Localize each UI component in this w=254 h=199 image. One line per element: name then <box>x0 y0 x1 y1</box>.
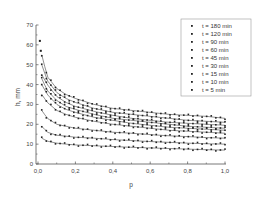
data-point <box>50 93 52 95</box>
data-point <box>201 143 203 145</box>
data-point <box>59 102 61 104</box>
data-point <box>210 115 212 117</box>
data-point <box>119 121 121 123</box>
data-point <box>224 144 226 146</box>
legend-label: t = 5 min <box>202 87 225 93</box>
data-point <box>87 128 89 130</box>
data-point <box>96 130 98 132</box>
data-point <box>41 74 43 76</box>
data-point <box>220 149 222 151</box>
data-point <box>146 133 148 135</box>
data-point <box>206 149 208 151</box>
data-point <box>188 143 190 145</box>
data-point <box>192 115 194 117</box>
data-point <box>41 55 43 57</box>
data-point <box>110 139 112 141</box>
data-point <box>165 128 167 130</box>
data-point <box>96 139 98 141</box>
data-point <box>183 122 185 124</box>
data-point <box>110 131 112 133</box>
legend-label: t = 60 min <box>202 47 229 53</box>
data-point <box>123 131 125 133</box>
data-point <box>128 114 130 116</box>
data-point <box>192 149 194 151</box>
data-point <box>165 112 167 114</box>
data-point <box>68 127 70 129</box>
data-point <box>151 111 153 113</box>
data-point <box>206 123 208 125</box>
data-point <box>87 138 89 140</box>
legend: t = 180 mint = 120 mint = 90 mint = 60 m… <box>181 19 251 96</box>
data-point <box>105 131 107 133</box>
data-point <box>59 97 61 99</box>
data-point <box>123 125 125 127</box>
data-point <box>169 149 171 151</box>
data-point <box>197 126 199 128</box>
data-point <box>201 120 203 122</box>
data-point <box>73 96 75 98</box>
data-point <box>78 110 80 112</box>
data-point <box>101 138 103 140</box>
data-point <box>210 144 212 146</box>
data-point <box>220 117 222 119</box>
data-point <box>82 107 84 109</box>
data-point <box>110 111 112 113</box>
legend-label: t = 180 min <box>202 23 232 29</box>
data-point <box>215 128 217 130</box>
data-point <box>50 120 52 122</box>
data-point <box>224 137 226 139</box>
data-point <box>178 118 180 120</box>
data-point <box>155 142 157 144</box>
data-point <box>160 141 162 143</box>
data-point <box>151 134 153 136</box>
data-point <box>55 122 57 124</box>
data-point <box>160 135 162 137</box>
x-tick-label: 0,8 <box>183 168 192 174</box>
data-point <box>114 133 116 135</box>
data-point <box>64 104 66 106</box>
data-point <box>128 146 130 148</box>
data-point <box>142 115 144 117</box>
data-point <box>55 109 57 111</box>
data-point <box>188 114 190 116</box>
data-point <box>110 116 112 118</box>
data-point <box>206 122 208 124</box>
data-point <box>50 89 52 91</box>
series-t-5-min <box>41 136 226 151</box>
data-point <box>133 146 135 148</box>
data-point <box>46 81 48 83</box>
data-point <box>59 134 61 136</box>
data-point <box>133 132 135 134</box>
data-point <box>110 119 112 121</box>
data-point <box>55 89 57 91</box>
data-point <box>91 145 93 147</box>
data-point <box>73 137 75 139</box>
data-point <box>192 135 194 137</box>
data-point <box>178 115 180 117</box>
data-point <box>87 115 89 117</box>
data-point <box>178 135 180 137</box>
data-point <box>160 113 162 115</box>
data-point <box>192 143 194 145</box>
data-point <box>224 121 226 123</box>
data-point <box>206 116 208 118</box>
data-point <box>224 125 226 127</box>
legend-label: t = 90 min <box>202 39 229 45</box>
data-point <box>165 127 167 129</box>
data-point <box>146 148 148 150</box>
x-axis-label: p <box>129 181 133 189</box>
data-point <box>41 109 43 111</box>
data-point <box>46 72 48 74</box>
data-point <box>206 127 208 129</box>
data-point <box>151 122 153 124</box>
data-point <box>46 117 48 119</box>
data-point <box>64 101 66 103</box>
data-point <box>192 123 194 125</box>
data-point <box>165 147 167 149</box>
data-point <box>128 125 130 127</box>
data-point <box>78 99 80 101</box>
data-point <box>220 132 222 134</box>
data-point <box>183 114 185 116</box>
data-point <box>169 117 171 119</box>
data-point <box>78 106 80 108</box>
